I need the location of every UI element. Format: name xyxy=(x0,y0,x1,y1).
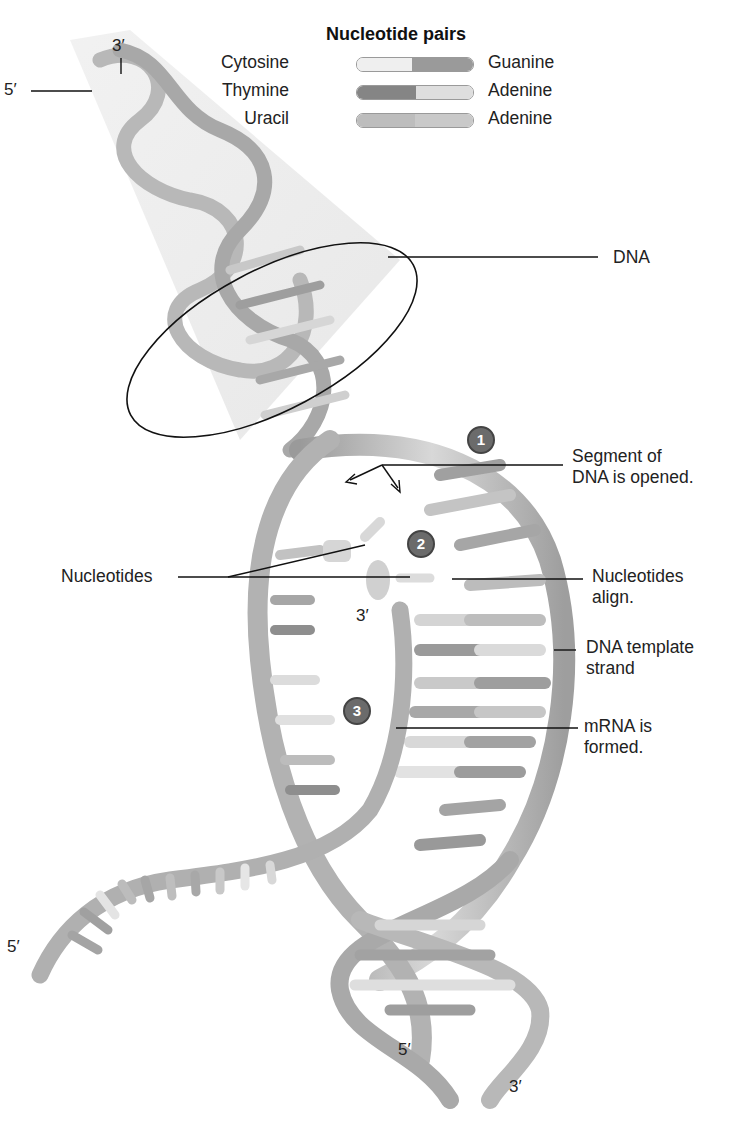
mrna-formed-line2: formed. xyxy=(584,737,652,758)
segment-opened-line2: DNA is opened. xyxy=(572,467,694,488)
legend-left-label: Thymine xyxy=(169,80,289,101)
segment-opened-label: Segment of DNA is opened. xyxy=(572,446,694,488)
step-2-marker: 2 xyxy=(407,530,435,558)
guanine-segment xyxy=(412,58,473,71)
thymine-segment xyxy=(357,86,416,99)
nucleotides-label: Nucleotides xyxy=(61,566,152,587)
dna-label: DNA xyxy=(613,247,650,268)
top-five-prime-label: 5′ xyxy=(4,80,17,100)
cytosine-segment xyxy=(357,58,412,71)
legend-right-label: Adenine xyxy=(488,80,552,101)
transcription-diagram: Nucleotide pairs Cytosine Guanine Thymin… xyxy=(0,0,736,1121)
adenine-segment xyxy=(416,86,473,99)
lower-helix xyxy=(339,860,540,1100)
top-three-prime-label: 3′ xyxy=(112,36,125,56)
legend-row-cytosine-guanine: Cytosine Guanine xyxy=(0,52,736,74)
legend-row-uracil-adenine: Uracil Adenine xyxy=(0,108,736,130)
pair-bar-uracil-adenine xyxy=(356,113,474,128)
uracil-segment xyxy=(357,114,415,127)
step-3-marker: 3 xyxy=(343,697,371,725)
legend-left-label: Uracil xyxy=(169,108,289,129)
mrna-formed-label: mRNA is formed. xyxy=(584,716,652,758)
legend-row-thymine-adenine: Thymine Adenine xyxy=(0,80,736,102)
legend-right-label: Adenine xyxy=(488,108,552,129)
dna-template-line2: strand xyxy=(586,658,694,679)
dna-template-strand-label: DNA template strand xyxy=(586,637,694,679)
nucleotides-align-label: Nucleotides align. xyxy=(592,566,683,608)
bottom-three-prime-label: 3′ xyxy=(509,1077,522,1097)
pair-bar-cytosine-guanine xyxy=(356,57,474,72)
legend-right-label: Guanine xyxy=(488,52,554,73)
dna-template-line1: DNA template xyxy=(586,637,694,658)
legend-title: Nucleotide pairs xyxy=(326,24,466,45)
mrna-five-prime-label: 5′ xyxy=(7,937,20,957)
mrna-three-prime-label: 3′ xyxy=(356,606,369,626)
mrna-formed-line1: mRNA is xyxy=(584,716,652,737)
nucleotides-align-line1: Nucleotides xyxy=(592,566,683,587)
step-1-marker: 1 xyxy=(467,426,495,454)
bottom-five-prime-label: 5′ xyxy=(398,1040,411,1060)
adenine-segment xyxy=(415,114,473,127)
leader-lines xyxy=(31,58,598,728)
segment-opened-line1: Segment of xyxy=(572,446,694,467)
dna-transcription-illustration xyxy=(0,0,736,1121)
nucleotides-align-line2: align. xyxy=(592,587,683,608)
pair-bar-thymine-adenine xyxy=(356,85,474,100)
legend-left-label: Cytosine xyxy=(169,52,289,73)
